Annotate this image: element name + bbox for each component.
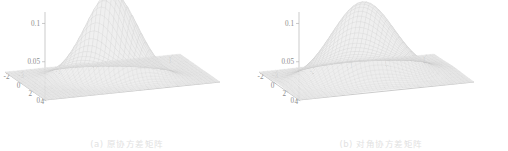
surface-svg-a: 00.050.1420-2-3-2-101 [0,0,254,131]
panel-b: 00.050.1420-2-3-2-101 (b) 对角协方差矩阵 [254,0,508,151]
figure-two-surface-plots: 00.050.1420-2-3-2-101 (a) 原协方差矩阵 00.050.… [0,0,508,151]
svg-text:0.05: 0.05 [281,58,294,66]
caption-a: (a) 原协方差矩阵 [0,137,254,149]
surface-plot-b: 00.050.1420-2-3-2-101 [254,0,508,131]
svg-text:0.1: 0.1 [285,20,294,28]
svg-text:2: 2 [29,90,33,98]
svg-text:0: 0 [271,82,275,90]
caption-b: (b) 对角协方差矩阵 [254,137,508,149]
svg-text:4: 4 [295,98,299,106]
svg-text:0: 0 [17,82,21,90]
panel-a: 00.050.1420-2-3-2-101 (a) 原协方差矩阵 [0,0,254,151]
surface-plot-a: 00.050.1420-2-3-2-101 [0,0,254,131]
svg-text:4: 4 [41,98,45,106]
svg-text:0.05: 0.05 [27,58,40,66]
svg-text:0.1: 0.1 [31,20,40,28]
surface-svg-b: 00.050.1420-2-3-2-101 [254,0,508,131]
svg-text:2: 2 [283,90,287,98]
